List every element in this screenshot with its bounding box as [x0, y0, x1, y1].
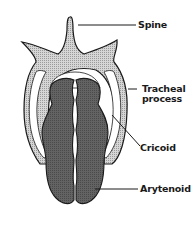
label-spine: Spine — [138, 20, 167, 30]
larynx-diagram: Spine Tracheal process Cricoid Arytenoid — [0, 0, 195, 232]
label-arytenoid: Arytenoid — [140, 184, 191, 194]
label-tracheal-process-line2: process — [142, 94, 182, 104]
larynx-drawing — [0, 0, 195, 232]
label-cricoid: Cricoid — [140, 143, 176, 153]
arytenoid-right — [76, 78, 108, 203]
